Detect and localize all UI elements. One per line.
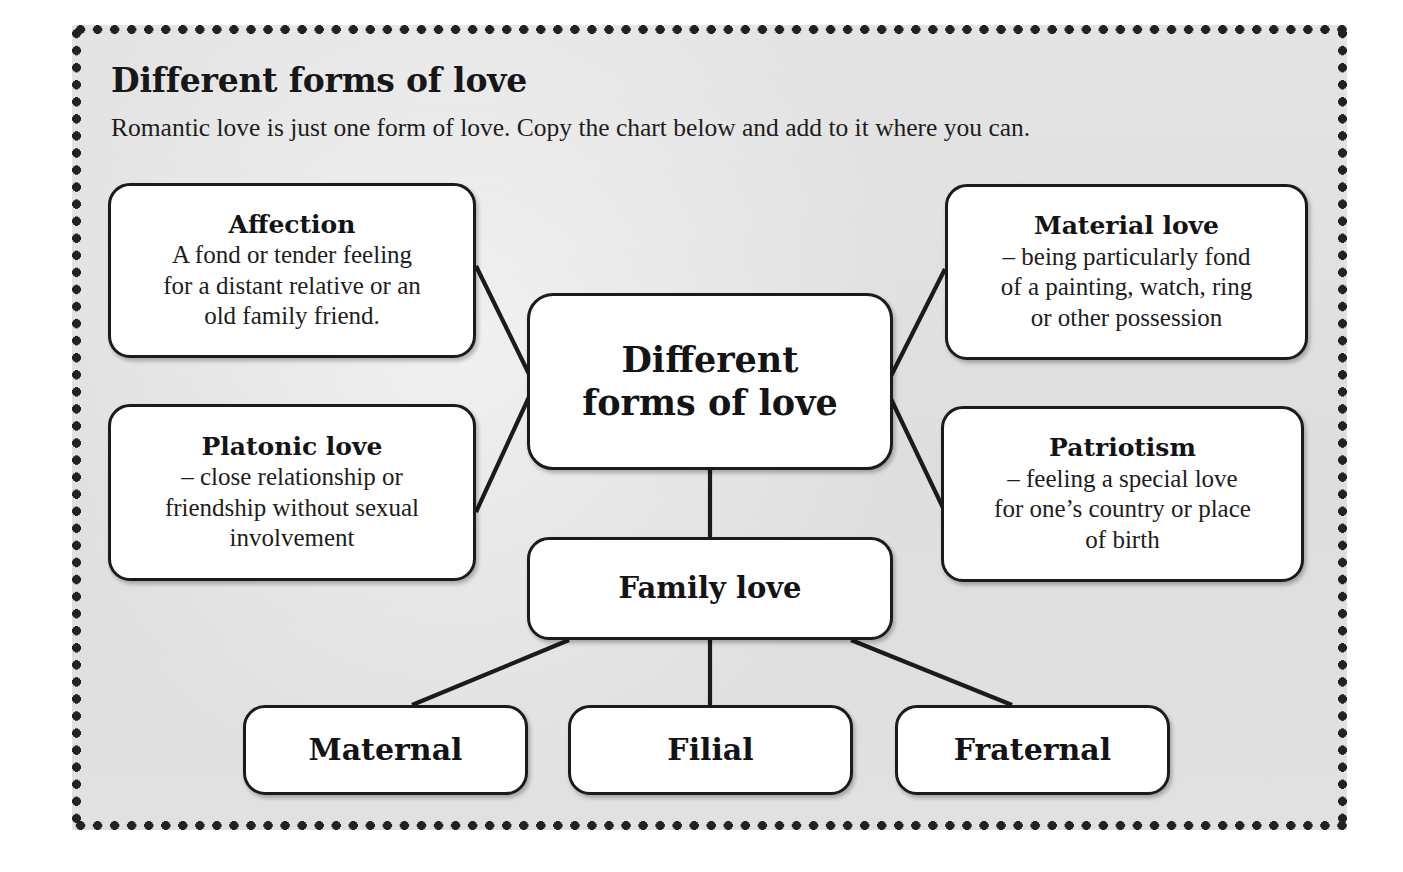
node-patriotism-body-line-1: – feeling a special love — [994, 464, 1251, 495]
node-patriotism-heading: Patriotism — [1049, 433, 1196, 463]
node-patriotism-body: – feeling a special love for one’s count… — [986, 464, 1259, 556]
node-fraternal-heading: Fraternal — [954, 732, 1111, 767]
dotted-border-right — [1338, 25, 1347, 830]
page-title: Different forms of love — [111, 61, 527, 100]
dotted-border-left — [72, 25, 81, 830]
node-platonic-love-body-line-2: friendship without sexual — [165, 493, 419, 524]
node-affection[interactable]: Affection A fond or tender feeling for a… — [108, 183, 476, 358]
node-family-love-heading: Family love — [618, 571, 801, 605]
node-fraternal[interactable]: Fraternal — [895, 705, 1170, 795]
node-material-love-body-line-3: or other possession — [1001, 303, 1252, 334]
dotted-panel: Different forms of love Romantic love is… — [72, 25, 1347, 830]
node-platonic-love[interactable]: Platonic love – close relationship or fr… — [108, 404, 476, 581]
node-patriotism[interactable]: Patriotism – feeling a special love for … — [941, 406, 1304, 582]
node-material-love-body: – being particularly fond of a painting,… — [993, 242, 1260, 334]
dotted-border-top — [72, 25, 1347, 34]
node-affection-body: A fond or tender feeling for a distant r… — [155, 240, 429, 332]
node-material-love-body-line-1: – being particularly fond — [1001, 242, 1252, 273]
dotted-border-bottom — [72, 821, 1347, 830]
node-filial[interactable]: Filial — [568, 705, 853, 795]
node-platonic-love-body: – close relationship or friendship witho… — [157, 462, 427, 554]
node-material-love[interactable]: Material love – being particularly fond … — [945, 184, 1308, 360]
node-maternal[interactable]: Maternal — [243, 705, 528, 795]
node-patriotism-body-line-2: for one’s country or place — [994, 494, 1251, 525]
node-center-different-forms-of-love[interactable]: Different forms of love — [527, 293, 893, 470]
page-subtitle: Romantic love is just one form of love. … — [111, 113, 1030, 143]
worksheet-page: Different forms of love Romantic love is… — [0, 0, 1403, 872]
node-affection-body-line-3: old family friend. — [163, 301, 421, 332]
node-family-love[interactable]: Family love — [527, 537, 893, 640]
node-maternal-heading: Maternal — [308, 732, 462, 767]
node-patriotism-body-line-3: of birth — [994, 525, 1251, 556]
node-platonic-love-body-line-1: – close relationship or — [165, 462, 419, 493]
node-platonic-love-heading: Platonic love — [202, 432, 383, 462]
node-material-love-body-line-2: of a painting, watch, ring — [1001, 272, 1252, 303]
node-center-heading-line-1: Different — [582, 339, 838, 382]
node-affection-body-line-1: A fond or tender feeling — [163, 240, 421, 271]
node-material-love-heading: Material love — [1034, 211, 1219, 241]
node-platonic-love-body-line-3: involvement — [165, 523, 419, 554]
node-center-heading-line-2: forms of love — [582, 382, 838, 425]
node-affection-heading: Affection — [229, 210, 356, 240]
node-center-heading: Different forms of love — [582, 339, 838, 424]
node-filial-heading: Filial — [667, 732, 753, 767]
node-affection-body-line-2: for a distant relative or an — [163, 271, 421, 302]
